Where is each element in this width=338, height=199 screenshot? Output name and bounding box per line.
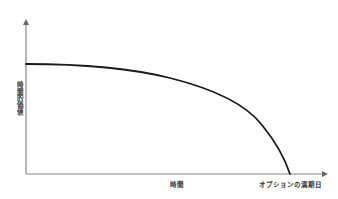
x-axis-label: 時間 <box>170 179 184 189</box>
expiry-date-label: オプションの満期日 <box>259 179 322 189</box>
chart-plot-area <box>0 0 338 199</box>
y-axis-label: 時間的価値 <box>12 81 22 115</box>
time-value-curve <box>26 64 290 174</box>
